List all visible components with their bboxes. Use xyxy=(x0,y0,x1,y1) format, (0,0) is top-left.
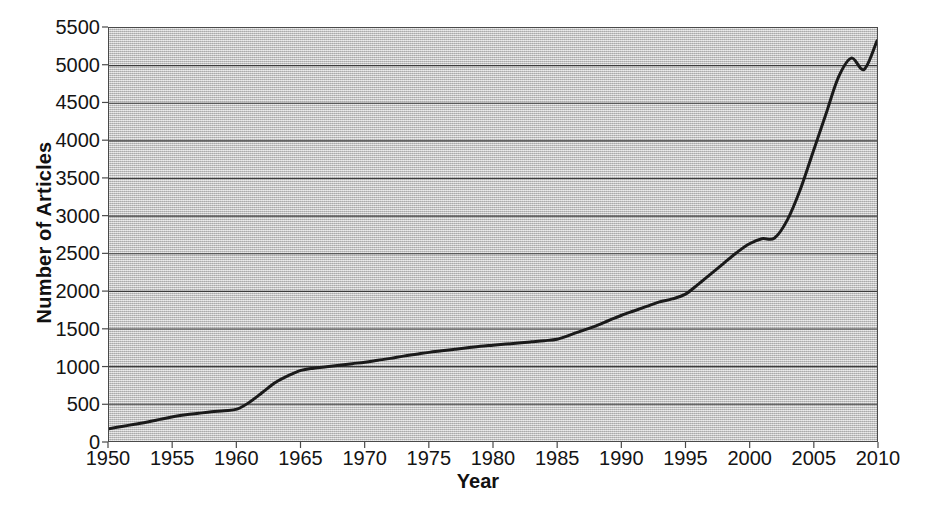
y-tick-label: 5000 xyxy=(4,55,100,75)
line-chart-figure: Number of Articles 050010001500200025003… xyxy=(0,0,929,505)
x-tick-label: 2010 xyxy=(838,448,918,468)
data-series-group xyxy=(109,41,877,429)
y-tick-label: 1000 xyxy=(4,357,100,377)
y-tick-label: 2000 xyxy=(4,281,100,301)
y-tick-label: 2500 xyxy=(4,243,100,263)
y-tick-label: 4500 xyxy=(4,92,100,112)
y-tick-label: 1500 xyxy=(4,319,100,339)
y-axis-tick-labels: 0500100015002000250030003500400045005000… xyxy=(0,0,100,505)
series-line xyxy=(109,41,877,429)
y-tick-label: 500 xyxy=(4,394,100,414)
gridlines xyxy=(109,66,877,405)
plot-area xyxy=(108,27,878,442)
y-tick-label: 3500 xyxy=(4,168,100,188)
y-tick-label: 5500 xyxy=(4,17,100,37)
x-axis-title: Year xyxy=(108,470,848,493)
y-tick-label: 3000 xyxy=(4,206,100,226)
plot-svg xyxy=(109,28,877,442)
y-tick-label: 4000 xyxy=(4,130,100,150)
